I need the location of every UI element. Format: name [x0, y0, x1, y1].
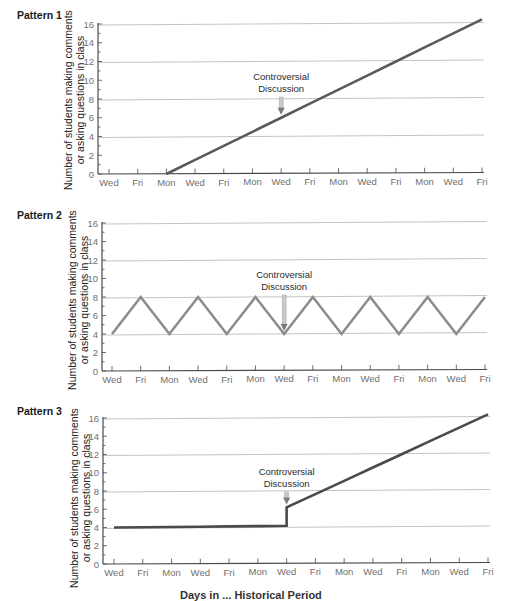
x-tick-label: Wed — [191, 567, 210, 578]
y-tick-label: 2 — [93, 347, 98, 358]
y-tick-label: 12 — [83, 56, 94, 67]
y-tick-label: 14 — [88, 431, 99, 442]
y-tick-label: 14 — [83, 37, 94, 48]
chart-panel-pattern-1: Pattern 1 Number of students making comm… — [0, 0, 506, 196]
x-tick-label: Fri — [310, 566, 321, 577]
gridline — [98, 23, 484, 26]
y-tick-label: 6 — [93, 310, 98, 321]
x-tick-label: Wed — [99, 177, 118, 188]
annotation-arrow-head-icon — [278, 108, 285, 115]
y-tick-label: 0 — [94, 559, 99, 570]
y-tick-label: 6 — [94, 504, 99, 515]
x-tick-label: Wed — [102, 374, 121, 385]
x-axis-caption-cropped: Days in ... Historical Period — [180, 589, 322, 601]
annotation-arrow-head-icon — [283, 497, 290, 504]
gridline — [98, 60, 484, 63]
x-tick-label: Mon — [332, 373, 350, 384]
line-chart-pattern-1: 0246810121416WedFriMonWedFriMonWedFriMon… — [0, 0, 506, 196]
x-tick-label: Fri — [479, 373, 490, 384]
x-tick-label: Mon — [246, 373, 264, 384]
y-tick-label: 10 — [83, 75, 94, 86]
x-tick-label: Fri — [304, 176, 315, 187]
y-tick-label: 2 — [94, 540, 99, 551]
annotation-arrow-shaft — [285, 492, 289, 497]
x-tick-label: Fri — [476, 176, 487, 187]
x-tick-label: Wed — [277, 566, 296, 577]
y-tick-label: 8 — [89, 94, 94, 105]
x-tick-label: Fri — [135, 374, 146, 385]
annotation-label-line1: Controversial — [259, 466, 315, 477]
x-tick-label: Fri — [396, 566, 407, 577]
x-tick-label: Fri — [393, 373, 404, 384]
gridline — [98, 135, 484, 138]
y-tick-label: 0 — [93, 366, 98, 377]
x-tick-label: Mon — [162, 567, 180, 578]
x-tick-label: Fri — [390, 176, 401, 187]
y-tick-label: 0 — [89, 169, 94, 180]
x-tick-label: Wed — [185, 177, 204, 188]
x-tick-label: Wed — [444, 176, 463, 187]
x-tick-label: Fri — [218, 177, 229, 188]
x-axis — [103, 563, 490, 565]
x-tick-label: Fri — [221, 374, 232, 385]
annotation-label-line2: Discussion — [261, 281, 307, 292]
gridline — [102, 222, 487, 225]
x-tick-label: Fri — [137, 567, 148, 578]
x-tick-label: Fri — [132, 177, 143, 188]
y-tick-label: 4 — [89, 131, 94, 142]
x-tick-label: Mon — [243, 176, 261, 187]
x-tick-label: Mon — [157, 177, 175, 188]
y-tick-label: 12 — [88, 449, 99, 460]
data-line — [166, 19, 482, 174]
x-axis — [98, 173, 484, 175]
x-tick-label: Mon — [421, 566, 439, 577]
y-tick-label: 12 — [87, 255, 98, 266]
annotation-label-line2: Discussion — [264, 478, 310, 489]
annotation-label-line1: Controversial — [253, 71, 309, 82]
y-tick-label: 16 — [88, 413, 99, 424]
x-tick-label: Wed — [274, 373, 293, 384]
x-tick-label: Wed — [363, 566, 382, 577]
data-line — [112, 297, 485, 334]
y-tick-label: 16 — [83, 19, 94, 30]
x-tick-label: Wed — [450, 566, 469, 577]
y-tick-label: 10 — [87, 273, 98, 284]
annotation-label-line1: Controversial — [256, 269, 312, 280]
chart-panel-pattern-3: Pattern 3 Number of students making comm… — [0, 394, 506, 594]
x-axis — [102, 370, 487, 372]
x-tick-label: Wed — [447, 373, 466, 384]
x-tick-label: Wed — [188, 374, 207, 385]
x-tick-label: Mon — [335, 566, 353, 577]
y-tick-label: 4 — [93, 329, 98, 340]
y-tick-label: 8 — [93, 292, 98, 303]
y-tick-label: 4 — [94, 522, 99, 533]
line-chart-pattern-2: 0246810121416WedFriMonWedFriMonWedFriMon… — [0, 196, 506, 394]
x-tick-label: Mon — [415, 176, 433, 187]
x-tick-label: Wed — [358, 176, 377, 187]
x-tick-label: Wed — [271, 176, 290, 187]
chart-panel-pattern-2: Pattern 2 Number of students making comm… — [0, 196, 506, 394]
gridline — [102, 333, 487, 336]
gridline — [103, 453, 490, 456]
x-tick-label: Mon — [160, 374, 178, 385]
x-tick-label: Fri — [307, 373, 318, 384]
x-tick-label: Mon — [329, 176, 347, 187]
gridline — [102, 259, 487, 262]
annotation-arrow-shaft — [282, 295, 286, 324]
x-tick-label: Wed — [361, 373, 380, 384]
x-tick-label: Fri — [482, 566, 493, 577]
gridline — [103, 490, 490, 493]
annotation-arrow-shaft — [279, 97, 283, 108]
gridline — [103, 417, 490, 420]
annotation-label-line2: Discussion — [258, 83, 304, 94]
y-tick-label: 8 — [94, 486, 99, 497]
x-tick-label: Mon — [418, 373, 436, 384]
x-tick-label: Fri — [224, 567, 235, 578]
y-tick-label: 16 — [87, 218, 98, 229]
line-chart-pattern-3: 0246810121416WedFriMonWedFriMonWedFriMon… — [0, 394, 506, 594]
gridline — [98, 98, 484, 101]
y-tick-label: 14 — [87, 236, 98, 247]
x-tick-label: Wed — [104, 567, 123, 578]
y-tick-label: 10 — [88, 467, 99, 478]
x-tick-label: Mon — [249, 566, 267, 577]
